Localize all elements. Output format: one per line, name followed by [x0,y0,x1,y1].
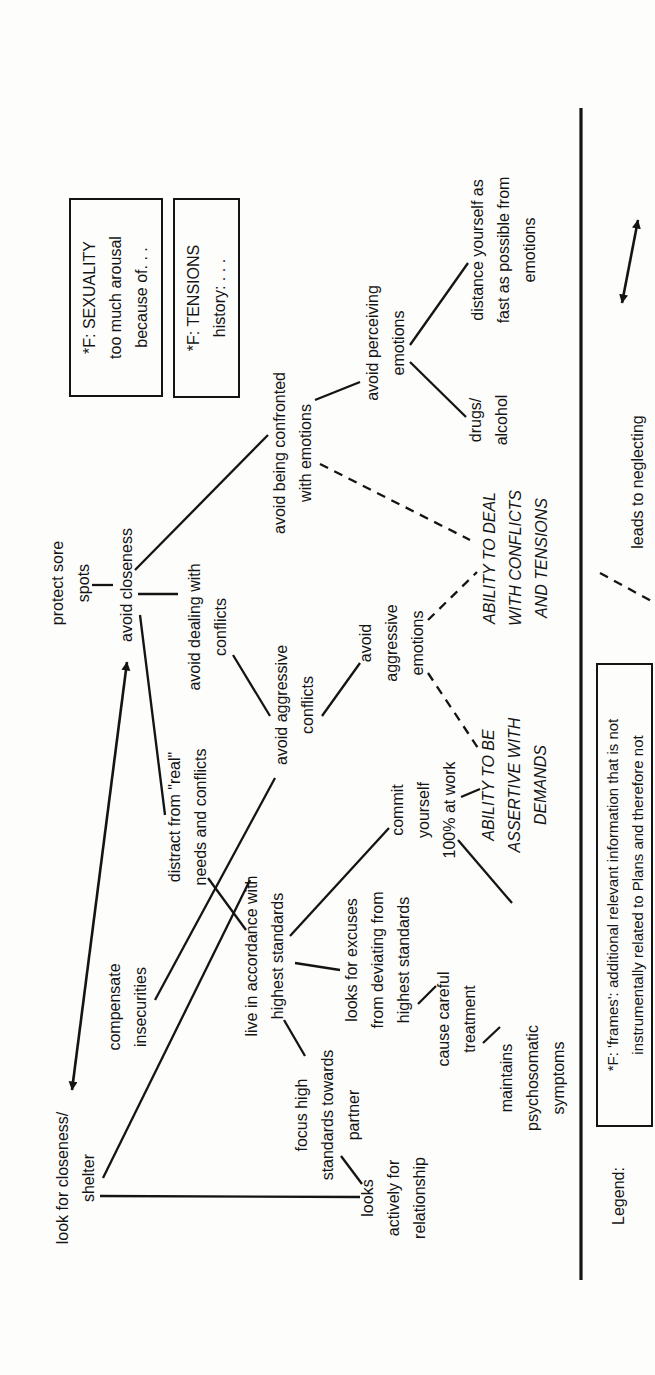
node-avoid-closeness: avoid closeness [114,528,140,642]
edge-avoid-aggressive-emotions--ability-assertive [428,673,478,748]
node-distract-from-real-needs: distract from "real" needs and conflicts [162,749,214,886]
edge-shelter--looks-actively [100,1196,360,1197]
node-looks-for-excuses: looks for excuses from deviating from hi… [339,892,417,1029]
frame-frame-tensions: *F: TENSIONS history: . . . [173,198,240,398]
node-ability-deal-conflicts-tensions: ABILITY TO DEAL WITH CONFLICTS AND TENSI… [477,490,555,626]
node-commit-yourself-work: commit yourself 100% at work [385,762,463,859]
edge-avoid-perceiving--distance-yourself [410,263,468,345]
frame-frame-sexuality: *F: SEXUALITY too much arousal because o… [69,198,163,397]
edge-legend-dashed-sample [600,573,653,602]
node-drugs-alcohol: drugs/ alcohol [463,395,515,446]
edge-avoid-being-confronted--ability-deal [320,464,470,540]
node-legend-title: Legend: [606,1167,632,1225]
node-avoid-aggressive-conflicts: avoid aggressive conflicts [269,645,321,765]
edge-avoid-being-confronted--avoid-perceiving [315,382,360,400]
edge-avoid-perceiving--drugs-alcohol [410,362,466,417]
node-compensate-insecurities: compensate insecurities [102,963,154,1050]
node-legend-dashed-label: leads to neglecting [625,415,651,548]
edge-legend-conflict-arrow [622,220,638,303]
node-avoid-aggressive-emotions: avoid aggressive emotions [353,604,431,681]
node-cause-careful-treatment: cause careful treatment [431,971,483,1066]
node-looks-actively-relationship: looks actively for relationship [355,1157,433,1239]
diagram-stage: look for closeness/ shelterprotect sore … [0,0,655,1375]
frame-legend-frames-note: *F: 'frames': additional relevant inform… [596,663,653,1127]
node-ability-assertive-demands: ABILITY TO BE ASSERTIVE WITH DEMANDS [476,718,554,853]
node-avoid-perceiving-emotions: avoid perceiving emotions [360,285,412,401]
edge-live-in-accordance--looks-for-excuses [295,963,340,970]
node-live-in-accordance: live in accordance with highest standard… [239,876,291,1037]
node-avoid-dealing-with-conflicts: avoid dealing with conflicts [182,563,234,690]
edge-avoid-closeness--avoid-being-confronted [135,435,268,570]
edge-avoid-aggressive-emotions--ability-deal [428,572,477,620]
node-avoid-being-confronted: avoid being confronted with emotions [267,372,319,534]
node-distance-yourself: distance yourself as fast as possible fr… [465,177,543,324]
node-maintains-psychosomatic: maintains psychosomatic symptoms [494,1025,572,1131]
edge-avoid-dealing--avoid-aggressive-conflicts [233,655,270,716]
node-protect-sore-spots: protect sore spots [45,541,97,625]
node-look-for-closeness-shelter: look for closeness/ shelter [50,1112,102,1245]
